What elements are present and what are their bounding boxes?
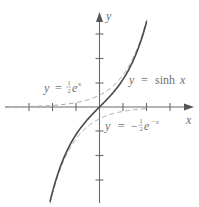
x-axis-label: x	[185, 113, 192, 127]
label-neg-half-exp-neg-x: y = − 1 2 e −x	[104, 117, 160, 133]
svg-text:=: =	[118, 119, 125, 133]
y-axis-label: y	[105, 9, 112, 23]
svg-text:y: y	[104, 119, 111, 133]
svg-text:=: =	[55, 81, 62, 95]
svg-text:y: y	[43, 81, 50, 95]
x-axis-arrow-icon	[184, 104, 194, 111]
svg-text:−x: −x	[151, 118, 160, 126]
svg-text:2: 2	[68, 87, 71, 94]
svg-text:1: 1	[68, 79, 71, 86]
svg-text:sinh: sinh	[155, 73, 175, 87]
svg-text:e: e	[144, 119, 150, 133]
svg-text:1: 1	[140, 117, 143, 124]
svg-text:x: x	[179, 73, 186, 87]
svg-text:−: −	[131, 119, 138, 133]
curve-sinh	[50, 21, 147, 202]
sinh-graph: y x y = sinh x y = 1 2 e x y = − 1 2 e −…	[0, 0, 199, 207]
label-sinh: y = sinh x	[128, 73, 186, 87]
svg-text:2: 2	[140, 125, 143, 132]
svg-text:y: y	[128, 73, 135, 87]
svg-text:=: =	[141, 73, 148, 87]
y-axis-arrow-icon	[96, 12, 103, 22]
svg-text:x: x	[77, 80, 82, 88]
label-half-exp-x: y = 1 2 e x	[43, 79, 82, 95]
